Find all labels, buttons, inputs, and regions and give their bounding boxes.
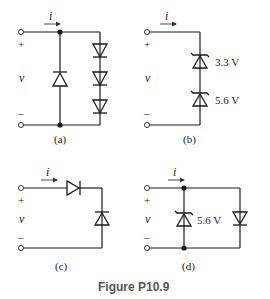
plus-sign: +	[18, 194, 24, 206]
minus-sign: –	[143, 231, 150, 243]
current-label-a: i	[49, 9, 52, 23]
terminal-top-b	[145, 30, 150, 35]
circuit-label-c: (c)	[55, 260, 68, 273]
zener-voltage-3-3: 3.3 V	[215, 56, 239, 68]
figure-caption: Figure P10.9	[98, 280, 170, 294]
current-label-c: i	[46, 165, 49, 179]
circuit-b: 3.3 V 5.6 V i + v – (b)	[143, 9, 239, 146]
minus-sign: –	[143, 107, 150, 119]
figure-p10-9: i + v – (a) 3.3 V 5.6 V i + v – (b)	[0, 0, 270, 299]
terminal-bottom-c	[19, 246, 24, 251]
plus-sign: +	[144, 38, 150, 50]
diode-icon	[67, 181, 80, 195]
terminal-bottom-b	[145, 123, 150, 128]
circuit-label-b: (b)	[183, 133, 196, 146]
minus-sign: –	[17, 231, 24, 243]
voltage-label-a: v	[19, 71, 25, 85]
terminal-bottom-a	[19, 123, 24, 128]
current-label-d: i	[173, 165, 176, 179]
terminal-bottom-d	[145, 246, 150, 251]
plus-sign: +	[18, 38, 24, 50]
terminal-top-d	[145, 186, 150, 191]
circuit-label-d: (d)	[182, 260, 195, 273]
terminal-top-c	[19, 186, 24, 191]
plus-sign: +	[144, 194, 150, 206]
circuit-a: i + v – (a)	[17, 9, 107, 146]
zener-voltage-5-6: 5.6 V	[215, 94, 239, 106]
circuit-d: 5.6 V i + v – (d)	[143, 165, 247, 273]
diode-icon	[53, 72, 67, 86]
circuit-c: i + v – (c)	[17, 165, 109, 273]
terminal-top-a	[19, 30, 24, 35]
zener-voltage-5-6-d: 5.6 V	[197, 214, 221, 226]
voltage-label-c: v	[19, 212, 25, 226]
voltage-label-d: v	[145, 212, 151, 226]
minus-sign: –	[17, 107, 24, 119]
circuit-label-a: (a)	[54, 133, 67, 146]
voltage-label-b: v	[145, 71, 151, 85]
current-label-b: i	[165, 9, 168, 23]
